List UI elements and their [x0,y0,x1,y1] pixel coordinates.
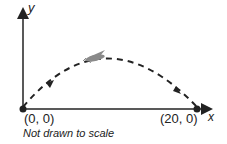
scale-note: Not drawn to scale [23,127,114,139]
y-axis-label: y [28,0,35,15]
end-point-label: (20, 0) [160,111,198,126]
start-point-label: (0, 0) [24,111,54,126]
x-axis-label: x [208,110,214,124]
grasshopper-icon [83,50,105,63]
